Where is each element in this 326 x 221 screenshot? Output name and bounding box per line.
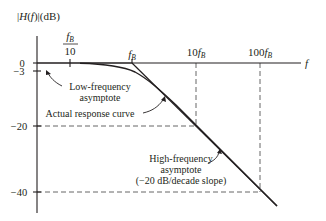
- y-axis-title: |H(f)|(dB): [17, 10, 60, 23]
- x-tick-100fb: 100fB: [248, 46, 273, 60]
- svg-text:10: 10: [65, 45, 77, 57]
- x-axis-label: f: [305, 57, 310, 69]
- y-tick-minus3: −3: [13, 66, 24, 77]
- high-freq-label-2: asymptote: [160, 164, 202, 175]
- high-freq-label-1: High-frequency: [149, 153, 212, 164]
- low-freq-arrow: [48, 73, 62, 86]
- x-tick-10fb: 10fB: [187, 46, 206, 60]
- svg-text:fB: fB: [66, 30, 74, 44]
- y-tick-minus20: −20: [11, 121, 27, 132]
- x-tick-fb-over-10: fB 10: [63, 30, 78, 57]
- actual-curve-label: Actual response curve: [46, 108, 135, 119]
- low-freq-label-1: Low-frequency: [69, 81, 131, 92]
- y-tick-minus40: −40: [11, 187, 27, 198]
- actual-curve-arrow: [143, 100, 163, 113]
- x-tick-fb: fB: [128, 48, 136, 62]
- bode-plot: |H(f)|(dB) 0 −3 −20 −40 fB 10 fB 10fB 10…: [0, 0, 326, 221]
- low-freq-label-2: asymptote: [79, 92, 121, 103]
- high-freq-label-3: (−20 dB/decade slope): [136, 175, 227, 187]
